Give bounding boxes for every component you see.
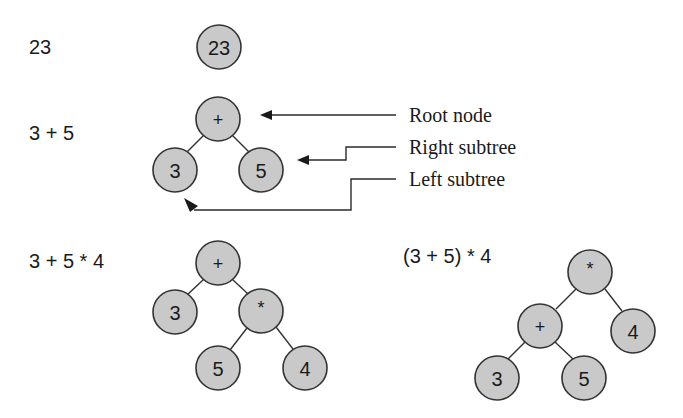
node-label: 5 [255, 160, 266, 182]
expression-label-parenthesized: (3 + 5) * 4 [403, 245, 491, 267]
callout-label-left: Left subtree [409, 168, 505, 190]
tree-node: * [239, 289, 283, 333]
node-label: 23 [208, 37, 230, 59]
callout-left-subtree: Left subtree [184, 168, 505, 212]
callout-label-root: Root node [409, 104, 492, 126]
tree-node: 5 [196, 346, 240, 390]
node-label: 5 [212, 358, 223, 380]
arrow-line [194, 179, 396, 210]
node-label: 3 [169, 160, 180, 182]
expression-label-23: 23 [29, 36, 51, 58]
tree-edge [555, 342, 573, 359]
tree-node: 3 [153, 290, 197, 334]
tree-edge [508, 342, 525, 359]
expression-label-3-plus-5-times-4: 3 + 5 * 4 [29, 250, 104, 272]
node-label: * [586, 259, 593, 279]
node-label: 4 [627, 321, 638, 343]
tree-edge [556, 289, 576, 309]
arrow-left-icon [297, 155, 309, 165]
tree-node-root: * [568, 250, 612, 294]
arrow-line [307, 147, 396, 160]
tree-edge [605, 289, 622, 311]
tree-23: 23 [197, 25, 241, 69]
node-label: + [213, 254, 224, 274]
arrow-left-icon [260, 110, 272, 120]
expression-label-3-plus-5: 3 + 5 [29, 122, 74, 144]
node-label: 4 [299, 358, 310, 380]
tree-edge [276, 327, 293, 349]
tree-node: 4 [611, 309, 655, 353]
tree-node: 3 [475, 356, 519, 400]
callout-label-right: Right subtree [409, 136, 516, 159]
tree-node-right: 5 [239, 148, 283, 192]
tree-node: 5 [562, 356, 606, 400]
tree-3-plus-5-times-4: + 3 * 5 4 [153, 241, 327, 390]
tree-node: + [518, 304, 562, 348]
tree-edge [186, 279, 204, 296]
callout-root-node: Root node [260, 104, 492, 126]
node-label: + [535, 317, 546, 337]
node-label: 3 [491, 368, 502, 390]
tree-node-root: + [196, 241, 240, 285]
node-label: 5 [578, 368, 589, 390]
tree-node-left: 3 [153, 148, 197, 192]
node-label: * [257, 298, 264, 318]
tree-edge [232, 135, 250, 153]
tree-edge [186, 135, 204, 153]
tree-edge [232, 279, 248, 294]
tree-edge [230, 328, 247, 350]
tree-node-root: + [196, 97, 240, 141]
tree-node: 4 [283, 346, 327, 390]
node-label: + [213, 110, 224, 130]
node-label: 3 [169, 302, 180, 324]
tree-node: 23 [197, 25, 241, 69]
tree-3-plus-5: + 3 5 [153, 97, 283, 192]
expression-tree-diagram: 23 3 + 5 3 + 5 * 4 (3 + 5) * 4 23 + 3 5 … [0, 0, 683, 418]
tree-parenthesized: * + 4 3 5 [475, 250, 655, 400]
callout-right-subtree: Right subtree [297, 136, 516, 165]
